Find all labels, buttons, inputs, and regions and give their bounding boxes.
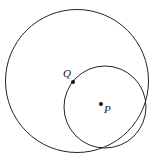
figure-canvas xyxy=(0,0,153,161)
point-p-label: P xyxy=(104,104,111,115)
outer-circle xyxy=(6,10,149,153)
geometry-figure: Q P xyxy=(0,0,153,161)
point-q-label: Q xyxy=(63,68,71,79)
point-q-dot xyxy=(71,80,75,84)
point-p-dot xyxy=(99,102,103,106)
